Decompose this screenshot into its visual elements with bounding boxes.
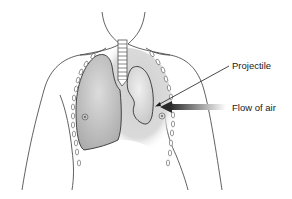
trachea: [118, 40, 127, 86]
pneumothorax-diagram: [0, 0, 292, 199]
air-flow-arrow-icon: [160, 101, 226, 113]
flow-of-air-label: Flow of air: [232, 103, 276, 113]
projectile-label: Projectile: [232, 61, 271, 71]
